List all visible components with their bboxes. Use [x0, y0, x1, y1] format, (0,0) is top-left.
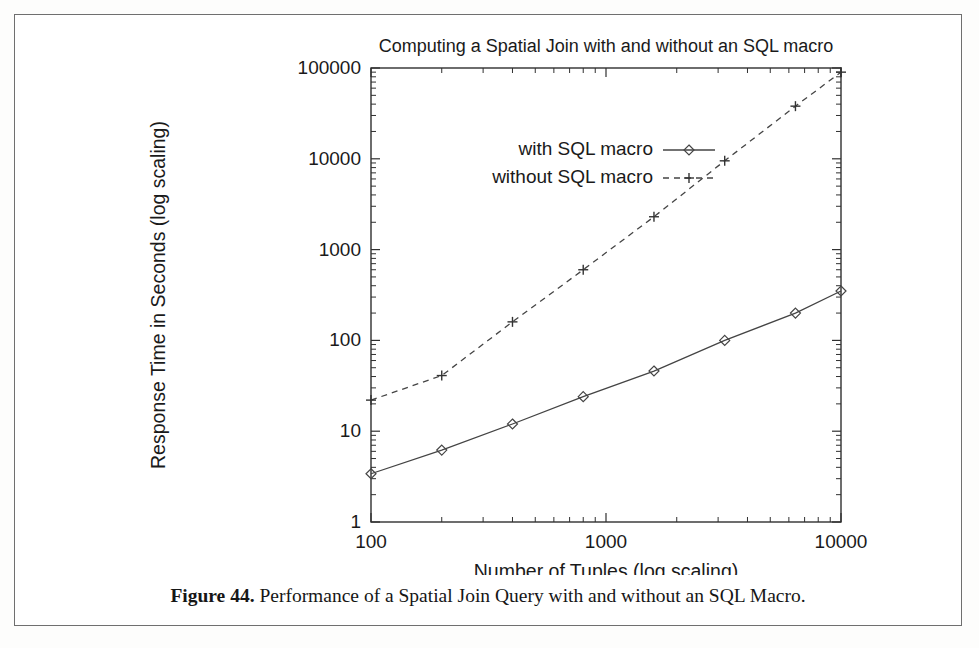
- x-tick-label: 10000: [815, 531, 868, 552]
- chart-plot: 100100010000110100100010000100000Computi…: [15, 15, 963, 575]
- y-tick-label: 1: [350, 511, 361, 532]
- x-tick-label: 100: [355, 531, 387, 552]
- y-tick-label: 10: [340, 420, 361, 441]
- figure-frame: 100100010000110100100010000100000Computi…: [14, 14, 962, 626]
- x-tick-label: 1000: [585, 531, 627, 552]
- y-tick-label: 100000: [298, 57, 361, 78]
- y-tick-label: 10000: [308, 148, 361, 169]
- legend-label-1: without SQL macro: [491, 166, 653, 187]
- chart-title: Computing a Spatial Join with and withou…: [379, 36, 834, 56]
- y-tick-label: 1000: [319, 239, 361, 260]
- y-tick-label: 100: [329, 329, 361, 350]
- figure-caption: Figure 44. Performance of a Spatial Join…: [15, 585, 961, 607]
- caption-text: Performance of a Spatial Join Query with…: [259, 585, 805, 606]
- x-axis-title: Number of Tuples (log scaling): [474, 560, 738, 575]
- plot-border: [371, 68, 841, 522]
- y-axis-title: Response Time in Seconds (log scaling): [147, 121, 169, 469]
- series-line-1: [371, 72, 841, 400]
- figure-page: 100100010000110100100010000100000Computi…: [0, 0, 979, 648]
- series-line-0: [371, 291, 841, 474]
- caption-label: Figure 44.: [170, 585, 254, 606]
- legend-label-0: with SQL macro: [518, 138, 653, 159]
